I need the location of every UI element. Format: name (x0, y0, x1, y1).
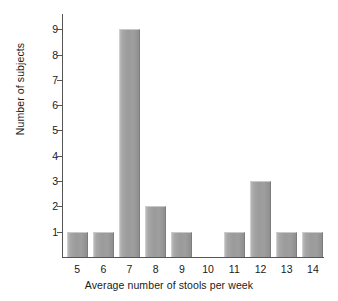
y-axis-tick-label: 5 (52, 124, 58, 136)
plot-area: 123456789 567891011121314 (62, 14, 324, 257)
x-axis-tick-label: 7 (127, 263, 133, 275)
y-axis-tick-label: 6 (52, 99, 58, 111)
y-axis-tick-label: 9 (52, 23, 58, 35)
bar (276, 232, 297, 257)
y-axis-tick-label: 8 (52, 49, 58, 61)
y-axis-tick-label: 3 (52, 175, 58, 187)
bar (171, 232, 192, 257)
x-axis-tick-label: 5 (74, 263, 80, 275)
y-axis-title: Number of subjects (14, 19, 26, 159)
x-axis-tick-label: 11 (229, 263, 240, 275)
bar (145, 206, 166, 257)
bar (119, 29, 140, 257)
x-axis-line (62, 257, 324, 258)
bar (93, 232, 114, 257)
y-axis-tick-label: 7 (52, 74, 58, 86)
x-axis-tick-label: 6 (100, 263, 106, 275)
x-axis-tick-label: 8 (153, 263, 159, 275)
y-axis-tick-label: 2 (52, 200, 58, 212)
x-axis-title: Average number of stools per week (0, 279, 338, 291)
bar (67, 232, 88, 257)
x-axis-tick-label: 13 (281, 263, 293, 275)
y-axis-tick-label: 1 (52, 226, 58, 238)
x-axis-tick-label: 9 (179, 263, 185, 275)
y-axis-tick-label: 4 (52, 150, 58, 162)
bar (302, 232, 323, 257)
bar (224, 232, 245, 257)
x-axis-tick-label: 12 (255, 263, 267, 275)
bar (250, 181, 271, 257)
bar-chart-figure: Number of subjects 123456789 56789101112… (0, 0, 338, 301)
x-axis-tick-label: 10 (202, 263, 214, 275)
x-axis-tick-label: 14 (307, 263, 319, 275)
y-axis-line (62, 14, 63, 257)
